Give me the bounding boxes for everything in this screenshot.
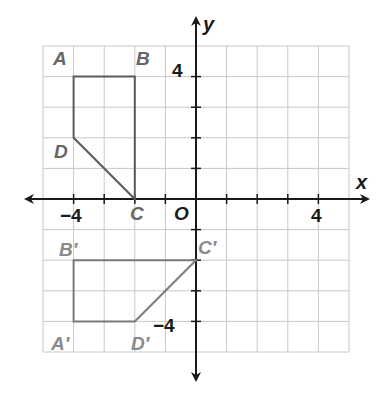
origin-label: O — [174, 203, 189, 224]
x-axis-label: x — [355, 171, 368, 193]
vertex-label-B: B — [136, 48, 150, 69]
vertex-label-D: D — [54, 141, 68, 162]
vertex-label-D-prime: D′ — [131, 333, 151, 354]
vertex-label-C: C — [130, 203, 144, 224]
coordinate-plane: x y O −4 4 4 −4 A B C D A′ B′ C′ D′ — [0, 0, 385, 404]
x-tick-label-neg4: −4 — [60, 205, 82, 226]
y-tick-label-4: 4 — [172, 60, 183, 81]
x-tick-label-4: 4 — [311, 205, 322, 226]
vertex-label-A: A — [52, 48, 67, 69]
vertex-label-C-prime: C′ — [198, 237, 218, 258]
vertex-label-B-prime: B′ — [59, 239, 79, 260]
vertex-label-A-prime: A′ — [50, 333, 71, 354]
y-axis-label: y — [202, 13, 215, 35]
y-tick-label-neg4: −4 — [153, 315, 175, 336]
